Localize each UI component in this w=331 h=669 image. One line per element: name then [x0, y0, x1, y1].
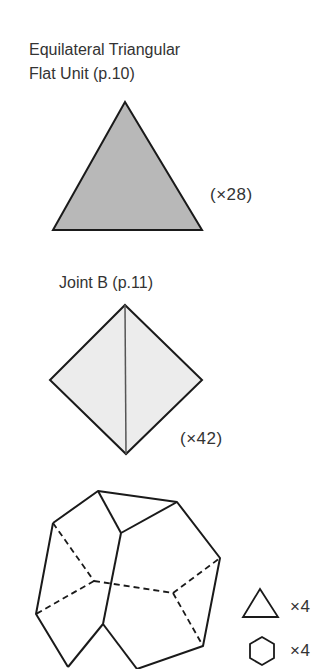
joint-b-shape: [50, 305, 202, 454]
joint-b-fold-line: [125, 305, 126, 454]
legend-triangle-icon: [243, 589, 278, 617]
legend-hexagon-icon: [250, 637, 274, 665]
truncated-tetrahedron-shape: [36, 491, 220, 669]
triangle-flat-unit-shape: [53, 102, 202, 230]
diagram-canvas: [0, 0, 331, 669]
